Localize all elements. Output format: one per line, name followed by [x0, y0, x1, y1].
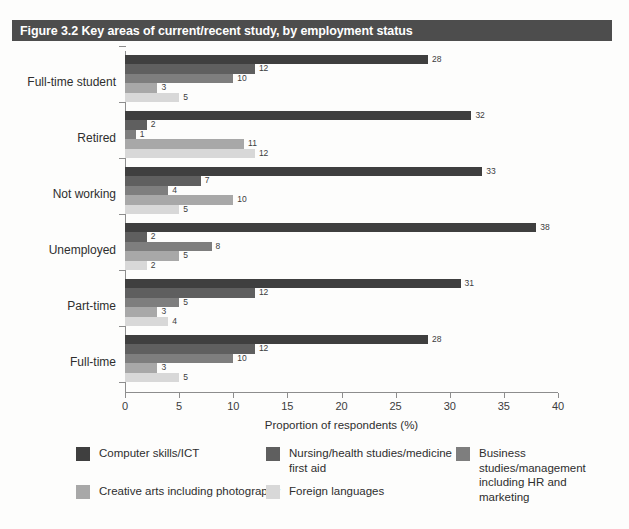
y-axis-label-retired: Retired	[8, 131, 116, 145]
x-axis-tick-label: 40	[552, 400, 564, 412]
bar-value-label: 5	[183, 205, 188, 214]
bar[interactable]	[125, 307, 157, 316]
legend-swatch-icon	[76, 485, 90, 499]
bar[interactable]	[125, 149, 255, 158]
legend-item[interactable]: Business studies/management including HR…	[456, 446, 616, 504]
y-axis-tick	[119, 382, 126, 383]
x-axis-tick-label: 5	[176, 400, 182, 412]
bar-row: 12	[125, 149, 558, 158]
bar-row: 3	[125, 363, 558, 372]
bar[interactable]	[125, 74, 233, 83]
x-axis-tick	[342, 393, 343, 398]
x-axis-tick	[504, 393, 505, 398]
bar[interactable]	[125, 195, 233, 204]
legend-item[interactable]: Foreign languages	[266, 484, 384, 499]
bar[interactable]	[125, 344, 255, 353]
bar[interactable]	[125, 139, 244, 148]
bar-value-label: 31	[465, 279, 474, 288]
legend-swatch-icon	[266, 485, 280, 499]
bar[interactable]	[125, 335, 428, 344]
bar-row: 32	[125, 111, 558, 120]
bar-row: 11	[125, 139, 558, 148]
x-axis-tick-label: 35	[498, 400, 510, 412]
bar-value-label: 12	[259, 288, 268, 297]
bar-row: 12	[125, 288, 558, 297]
bar-group: 28121035	[125, 335, 558, 391]
x-axis-tick	[558, 393, 559, 398]
x-axis-tick-label: 10	[227, 400, 239, 412]
x-axis-tick	[233, 393, 234, 398]
bar-value-label: 3	[161, 307, 166, 316]
bar[interactable]	[125, 354, 233, 363]
x-axis-tick-label: 15	[281, 400, 293, 412]
bar[interactable]	[125, 223, 536, 232]
y-axis-tick	[119, 102, 126, 103]
bar-row: 8	[125, 242, 558, 251]
bar-group: 3112534	[125, 279, 558, 335]
bar-value-label: 32	[475, 111, 484, 120]
bar[interactable]	[125, 93, 179, 102]
bar[interactable]	[125, 279, 461, 288]
bar-value-label: 12	[259, 64, 268, 73]
legend-item[interactable]: Nursing/health studies/medicine first ai…	[266, 446, 452, 475]
bar[interactable]	[125, 55, 428, 64]
y-axis-label-full-time-student: Full-time student	[8, 75, 116, 89]
bar[interactable]	[125, 167, 482, 176]
bar-row: 2	[125, 261, 558, 270]
legend-swatch-icon	[76, 447, 90, 461]
plot-area: 2812103532211112337410538285231125342812…	[125, 51, 558, 388]
legend-item[interactable]: Computer skills/ICT	[76, 446, 199, 461]
bar[interactable]	[125, 186, 168, 195]
x-axis-tick-label: 20	[335, 400, 347, 412]
bar-value-label: 28	[432, 55, 441, 64]
bar[interactable]	[125, 111, 471, 120]
bar[interactable]	[125, 205, 179, 214]
bar-value-label: 28	[432, 335, 441, 344]
bar[interactable]	[125, 298, 179, 307]
y-axis-label-not-working: Not working	[8, 187, 116, 201]
bar-value-label: 12	[259, 149, 268, 158]
bar-value-label: 12	[259, 344, 268, 353]
bar-value-label: 2	[151, 232, 156, 241]
bar-row: 5	[125, 93, 558, 102]
bar[interactable]	[125, 176, 201, 185]
legend-label: Nursing/health studies/medicine first ai…	[289, 446, 452, 475]
x-axis-title: Proportion of respondents (%)	[125, 419, 558, 431]
x-axis-tick	[396, 393, 397, 398]
bar[interactable]	[125, 64, 255, 73]
bar-row: 4	[125, 186, 558, 195]
bar-value-label: 5	[183, 373, 188, 382]
y-axis-tick	[119, 270, 126, 271]
bar-row: 28	[125, 335, 558, 344]
bar-value-label: 10	[237, 195, 246, 204]
bar[interactable]	[125, 288, 255, 297]
x-axis-tick	[450, 393, 451, 398]
legend-swatch-icon	[456, 447, 470, 461]
bar[interactable]	[125, 130, 136, 139]
bar[interactable]	[125, 232, 147, 241]
bar[interactable]	[125, 317, 168, 326]
y-axis-tick	[119, 46, 126, 47]
bar-row: 2	[125, 232, 558, 241]
bar[interactable]	[125, 363, 157, 372]
legend-item[interactable]: Creative arts including photography	[76, 484, 280, 499]
bar[interactable]	[125, 242, 212, 251]
x-axis-tick-label: 25	[390, 400, 402, 412]
y-axis-tick	[119, 158, 126, 159]
bar-row: 3	[125, 83, 558, 92]
y-axis-category-labels: Full-time studentRetiredNot workingUnemp…	[8, 51, 116, 392]
bar-row: 3	[125, 307, 558, 316]
bar-row: 7	[125, 176, 558, 185]
bar-value-label: 4	[172, 317, 177, 326]
bar[interactable]	[125, 261, 147, 270]
y-axis-tick	[119, 326, 126, 327]
legend-label: Business studies/management including HR…	[479, 446, 616, 504]
bar[interactable]	[125, 83, 157, 92]
bar-value-label: 5	[183, 93, 188, 102]
bar-row: 5	[125, 205, 558, 214]
bar[interactable]	[125, 373, 179, 382]
figure-title-bar: Figure 3.2 Key areas of current/recent s…	[12, 20, 612, 41]
bar-row: 5	[125, 251, 558, 260]
x-axis-tick-label: 0	[122, 400, 128, 412]
bar-value-label: 7	[205, 176, 210, 185]
